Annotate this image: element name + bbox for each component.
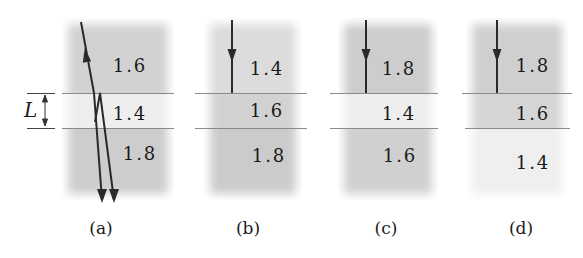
caption-d: (d) bbox=[509, 218, 533, 238]
ray-arrow-c bbox=[362, 20, 371, 93]
index-label-a-bottom: 1.8 bbox=[123, 143, 158, 164]
index-label-b-bottom: 1.8 bbox=[252, 145, 287, 166]
ray-arrow-d bbox=[493, 20, 502, 93]
index-label-b-film: 1.6 bbox=[250, 100, 285, 121]
index-label-a-top: 1.6 bbox=[113, 55, 148, 76]
caption-c: (c) bbox=[375, 218, 398, 238]
index-label-d-film: 1.6 bbox=[516, 103, 551, 124]
caption-a: (a) bbox=[89, 218, 112, 238]
dimension-arrow-icon bbox=[43, 95, 48, 126]
index-label-d-top: 1.8 bbox=[516, 55, 551, 76]
index-label-d-bottom: 1.4 bbox=[516, 152, 551, 173]
ray-arrow-b bbox=[228, 20, 237, 93]
index-label-a-film: 1.4 bbox=[113, 103, 148, 124]
index-label-c-film: 1.4 bbox=[382, 103, 417, 124]
rays-overlay bbox=[0, 0, 583, 258]
caption-b: (b) bbox=[236, 218, 260, 238]
index-label-b-top: 1.4 bbox=[250, 58, 285, 79]
index-label-c-top: 1.8 bbox=[382, 58, 417, 79]
index-label-c-bottom: 1.6 bbox=[383, 145, 418, 166]
